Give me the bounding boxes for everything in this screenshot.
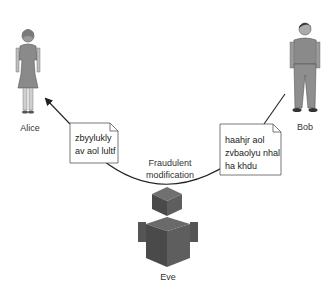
line-from-bob: [264, 94, 285, 124]
bob-label: Bob: [287, 122, 323, 132]
bob-note-line: haahjr aol: [225, 134, 280, 147]
eve-figure: [138, 187, 198, 267]
bob-note-line: ha khdu: [225, 160, 280, 173]
alice-note: zbyylukly av aol lultf: [71, 129, 120, 161]
alice-figure: [16, 29, 40, 114]
arrow-to-alice: [46, 99, 70, 124]
alice-label: Alice: [10, 123, 50, 133]
alice-note-line: av aol lultf: [75, 145, 116, 158]
bob-note: haahjr aol zvbaolyu nhal ha khdu: [221, 131, 284, 176]
bob-note-line: zvbaolyu nhal: [225, 147, 280, 160]
arc-label: Fraudulent modification: [135, 157, 205, 181]
bob-figure: [290, 23, 320, 112]
arc-label-line: Fraudulent: [135, 157, 205, 169]
alice-note-line: zbyylukly: [75, 132, 116, 145]
eve-label: Eve: [150, 272, 186, 282]
arc-label-line: modification: [135, 169, 205, 181]
